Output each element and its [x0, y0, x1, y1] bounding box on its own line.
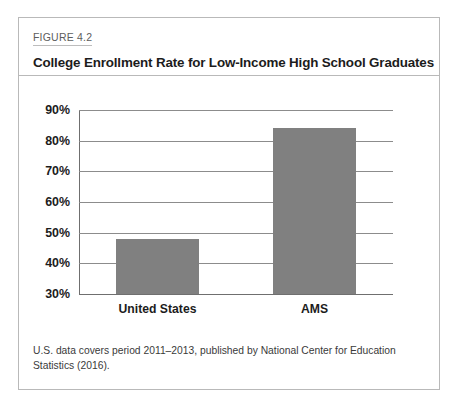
x-axis-line: [79, 294, 393, 295]
x-axis-tick-label: United States: [119, 302, 197, 316]
figure-header: FIGURE 4.2 College Enrollment Rate for L…: [19, 18, 439, 70]
y-axis-tick-label: 90%: [45, 103, 70, 117]
y-axis-tick-label: 50%: [45, 226, 70, 240]
y-axis-tick-label: 70%: [45, 164, 70, 178]
figure-container: FIGURE 4.2 College Enrollment Rate for L…: [18, 17, 440, 390]
y-axis-tick-label: 60%: [45, 195, 70, 209]
figure-note: U.S. data covers period 2011–2013, publi…: [33, 344, 427, 373]
bar: [116, 239, 199, 294]
figure-title: College Enrollment Rate for Low-Income H…: [33, 55, 425, 70]
y-axis-tick-label: 80%: [45, 134, 70, 148]
plot-area: 30%40%50%60%70%80%90% United StatesAMS: [79, 110, 393, 295]
gridline: [79, 110, 393, 111]
y-axis-tick-label: 40%: [45, 256, 70, 270]
bar: [273, 128, 356, 294]
x-axis-tick-label: AMS: [301, 302, 328, 316]
chart-area: 30%40%50%60%70%80%90% United StatesAMS: [19, 76, 439, 329]
figure-number-label: FIGURE 4.2: [33, 31, 92, 46]
y-axis-tick-label: 30%: [45, 287, 70, 301]
